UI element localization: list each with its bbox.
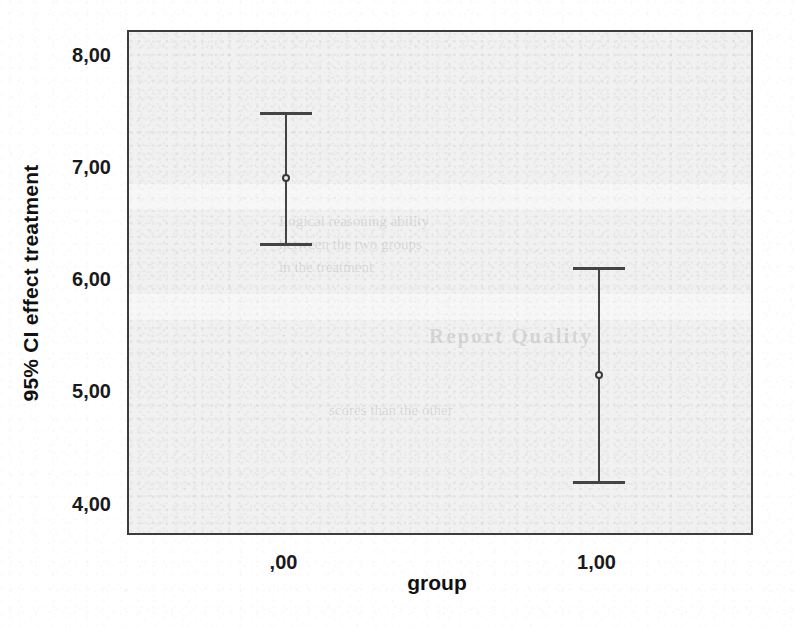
y-axis-tick-label: 4,00 [72,494,111,514]
x-axis-title-text: group [407,571,466,595]
y-axis-title-text: 95% CI effect treatment [19,164,43,401]
error-bar-lower-cap [260,243,312,246]
y-axis-tick-label: 7,00 [72,157,111,177]
error-bar-upper-cap [573,267,625,270]
x-axis-tick-label: ,00 [270,552,298,572]
error-bar-upper-cap [260,112,312,115]
y-axis-tick-label: 5,00 [72,381,111,401]
y-axis-tick [127,56,129,58]
y-axis-tick-label: 6,00 [72,269,111,289]
x-axis-tick-label: 1,00 [577,552,616,572]
error-bar-lower-cap [573,481,625,484]
y-axis-tick [127,280,129,282]
plot-area: Logical reasoning ability hetween the tw… [127,30,753,535]
error-bar-chart-figure: Logical reasoning ability hetween the tw… [0,0,796,627]
bleed-through-band [129,184,751,210]
mean-marker [282,174,290,182]
bleed-through-text: scores than the other [329,402,453,419]
mean-marker [595,371,603,379]
y-axis-tick-label: 8,00 [72,45,111,65]
y-axis-title: 95% CI effect treatment [14,0,48,565]
y-axis-tick [127,392,129,394]
bleed-through-heading: Report Quality [429,324,593,349]
plot-background-texture [129,32,751,533]
x-axis-title: group [0,571,796,595]
y-axis-tick [127,168,129,170]
y-axis-tick [127,505,129,507]
bleed-through-band [129,294,751,320]
